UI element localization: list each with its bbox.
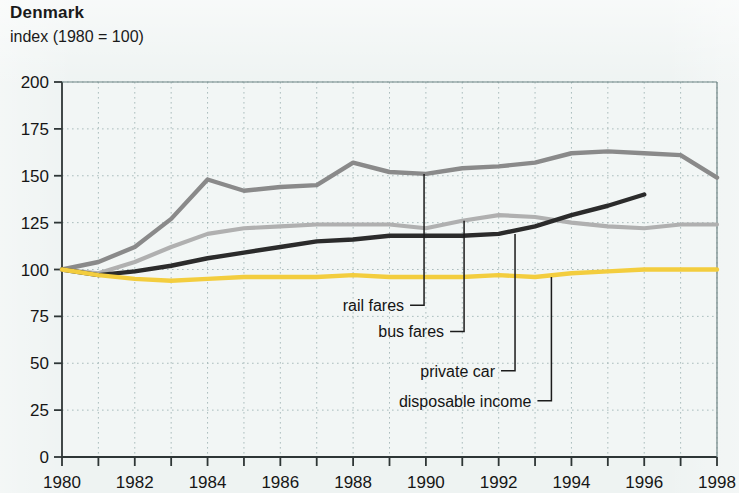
x-axis-tick-label: 1984	[189, 473, 227, 492]
y-axis-tick-label: 150	[21, 167, 49, 186]
y-axis-tick-label: 200	[21, 73, 49, 92]
y-axis-tick-label: 175	[21, 120, 49, 139]
chart-canvas: rail faresbus faresprivate cardisposable…	[0, 0, 739, 493]
annotation-label-rail-fares: rail fares	[343, 297, 404, 314]
x-axis-tick-label: 1996	[625, 473, 663, 492]
x-axis-tick-label: 1980	[43, 473, 81, 492]
x-axis-tick-label: 1994	[553, 473, 591, 492]
y-axis-tick-label: 125	[21, 214, 49, 233]
y-axis-tick-label: 25	[30, 401, 49, 420]
line-chart: rail faresbus faresprivate cardisposable…	[0, 0, 739, 493]
x-axis-tick-label: 1982	[116, 473, 154, 492]
x-axis-tick-label: 1998	[698, 473, 736, 492]
y-axis-tick-label: 0	[40, 448, 49, 467]
annotation-label-private-car: private car	[420, 363, 495, 380]
y-axis-tick-label: 50	[30, 354, 49, 373]
annotation-label-disposable-income: disposable income	[399, 393, 532, 410]
x-axis-tick-label: 1990	[407, 473, 445, 492]
annotation-label-bus-fares: bus fares	[378, 323, 444, 340]
x-axis-tick-label: 1986	[261, 473, 299, 492]
y-axis-tick-label: 75	[30, 307, 49, 326]
x-axis-tick-label: 1992	[480, 473, 518, 492]
x-axis-tick-label: 1988	[334, 473, 372, 492]
y-axis-tick-label: 100	[21, 261, 49, 280]
